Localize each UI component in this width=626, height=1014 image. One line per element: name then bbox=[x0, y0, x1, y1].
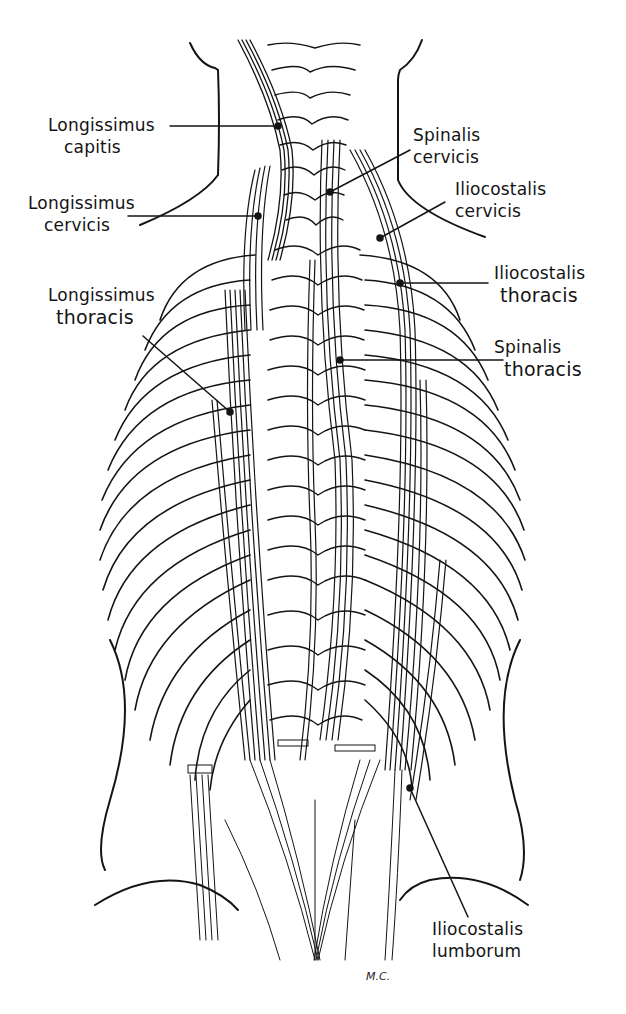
label-longissimus-thoracis: Longissimus thoracis bbox=[48, 284, 155, 328]
label-line2: cervicis bbox=[413, 146, 480, 168]
artist-signature: M.C. bbox=[366, 970, 390, 983]
label-line1: Spinalis bbox=[494, 336, 582, 358]
label-spinalis-thoracis: Spinalis thoracis bbox=[494, 336, 582, 380]
label-iliocostalis-lumborum: Iliocostalis lumborum bbox=[432, 918, 523, 962]
label-line1: Spinalis bbox=[413, 124, 480, 146]
label-line1: Longissimus bbox=[28, 192, 135, 214]
label-line1: Longissimus bbox=[48, 284, 155, 306]
label-iliocostalis-thoracis: Iliocostalis thoracis bbox=[494, 262, 585, 306]
label-line2: thoracis bbox=[494, 358, 582, 380]
label-line1: Iliocostalis bbox=[494, 262, 585, 284]
label-line2: lumborum bbox=[432, 940, 523, 962]
body-outline bbox=[95, 40, 528, 910]
label-line2: capitis bbox=[48, 136, 155, 158]
label-line1: Iliocostalis bbox=[432, 918, 523, 940]
label-line1: Iliocostalis bbox=[455, 178, 546, 200]
label-line2: thoracis bbox=[48, 306, 155, 328]
lumbar-aponeurosis bbox=[188, 740, 402, 960]
longissimus-thoracis-muscle bbox=[212, 290, 275, 760]
label-iliocostalis-cervicis: Iliocostalis cervicis bbox=[455, 178, 546, 222]
spinalis-muscle bbox=[300, 140, 353, 760]
label-spinalis-cervicis: Spinalis cervicis bbox=[413, 124, 480, 168]
label-longissimus-capitis: Longissimus capitis bbox=[48, 114, 155, 158]
label-longissimus-cervicis: Longissimus cervicis bbox=[28, 192, 135, 236]
label-line2: cervicis bbox=[455, 200, 546, 222]
label-line1: Longissimus bbox=[48, 114, 155, 136]
label-line2: thoracis bbox=[494, 284, 585, 306]
label-line2: cervicis bbox=[28, 214, 135, 236]
iliocostalis-muscle bbox=[350, 150, 446, 800]
